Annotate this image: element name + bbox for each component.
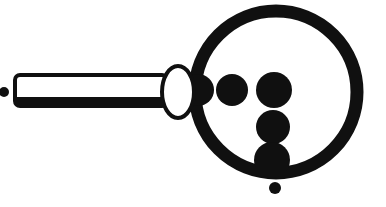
magnifier-ferrule-group xyxy=(162,66,194,118)
magnifying-glass-illustration: Dot 1Dot 2Dot 3Dot 4Dot 5Dot 6 xyxy=(0,0,386,207)
ferrule-ellipse xyxy=(162,66,194,118)
lens-dot: Dot 4 xyxy=(256,110,290,144)
lens-dot: Dot 2 xyxy=(216,74,248,106)
lens-dot: Dot 5 xyxy=(254,142,290,178)
figure-canvas: Black and white line drawing of a magnif… xyxy=(0,0,386,207)
handle-bottom-edge xyxy=(16,97,166,106)
lens-dot: Dot 6 xyxy=(269,182,281,194)
magnifier-handle-group xyxy=(0,75,167,106)
lens-dot: Dot 3 xyxy=(256,72,292,108)
